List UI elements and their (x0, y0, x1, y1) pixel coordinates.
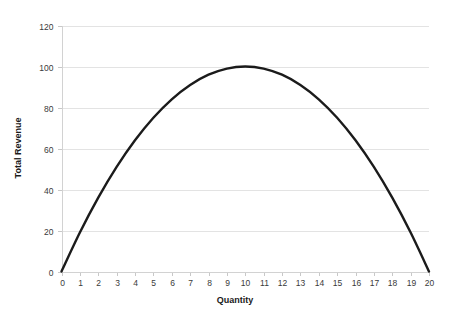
x-tick-label: 19 (407, 278, 417, 288)
x-tick-label: 10 (241, 278, 251, 288)
x-tick-label: 1 (78, 278, 83, 288)
x-tick-label: 11 (260, 278, 269, 288)
x-tick-label: 4 (133, 278, 138, 288)
x-tick-label: 17 (370, 278, 380, 288)
x-tick-label: 3 (115, 278, 120, 288)
x-tick-label: 15 (333, 278, 343, 288)
x-tick-label: 9 (225, 278, 230, 288)
x-tick-label: 8 (207, 278, 212, 288)
x-tick-label: 2 (96, 278, 101, 288)
y-tick-label: 100 (39, 63, 53, 73)
y-tick-label: 80 (44, 104, 54, 114)
y-tick-label: 0 (49, 268, 54, 278)
x-tick-label: 14 (315, 278, 325, 288)
x-tick-label: 7 (188, 278, 193, 288)
y-tick-label: 20 (44, 227, 54, 237)
y-tick-label: 40 (44, 186, 54, 196)
x-tick-label: 20 (425, 278, 435, 288)
x-tick-label: 12 (278, 278, 288, 288)
y-tick-label: 60 (44, 145, 54, 155)
revenue-chart: 020406080100120 012345678910111213141516… (0, 0, 453, 315)
x-axis-tick-labels: 01234567891011121314151617181920 (60, 278, 434, 288)
x-tick-label: 5 (151, 278, 156, 288)
x-tick-label: 6 (170, 278, 175, 288)
y-tick-label: 120 (39, 22, 53, 32)
x-tick-label: 13 (296, 278, 306, 288)
y-axis-title: Total Revenue (13, 118, 23, 179)
x-tick-label: 16 (352, 278, 362, 288)
x-axis-title: Quantity (217, 295, 254, 305)
x-tick-label: 18 (388, 278, 398, 288)
chart-background (0, 0, 453, 315)
chart-canvas: 020406080100120 012345678910111213141516… (0, 0, 453, 315)
x-tick-label: 0 (60, 278, 65, 288)
